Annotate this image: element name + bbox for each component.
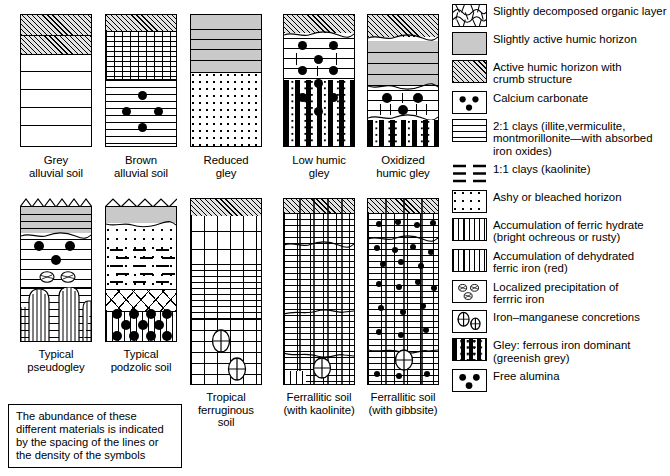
free-alumina-dot	[392, 247, 398, 253]
calcium-carbonate-dot	[51, 255, 61, 265]
profile-column	[105, 14, 177, 147]
layer-active-humic	[191, 199, 261, 216]
free-alumina-dot	[410, 244, 416, 250]
legend-item-localized-ferric-precipitation: Localized precipitation of ferrric iron	[452, 280, 668, 306]
horizon-line	[21, 214, 91, 215]
profile-typical-podzolic-soil: Typical podzolic soil	[105, 198, 177, 342]
layer-slightly-active-humic	[191, 15, 261, 72]
free-alumina-dot	[398, 332, 404, 338]
legend-item-slightly-active-humic: Slightly active humic horizon	[452, 32, 668, 55]
free-alumina-dot	[380, 261, 386, 267]
active-humic-crumb-swatch	[452, 60, 487, 83]
free-alumina-dot	[112, 309, 122, 319]
slightly-active-humic-swatch	[452, 32, 487, 55]
profile-low-humic-gley: Low humic gley	[283, 14, 355, 147]
profile-caption: Grey alluvial soil	[20, 154, 92, 179]
free-alumina-dot	[162, 309, 172, 319]
free-alumina-dot	[129, 331, 139, 341]
free-alumina-swatch	[452, 369, 487, 392]
legend-item-2-1-clays: 2:1 clays (illite,vermiculite, montmoril…	[452, 119, 668, 157]
horizon-line	[191, 39, 261, 40]
legend-label: Accumulation of dehydrated ferric iron (…	[493, 249, 634, 275]
free-alumina-dot	[129, 309, 139, 319]
horizon-line	[21, 89, 91, 90]
layer-gley-ferrous	[368, 120, 438, 147]
layer-cross-structure	[106, 290, 176, 311]
wavy-boundary	[284, 309, 354, 316]
clay-tick	[296, 53, 297, 65]
horizon-line	[191, 60, 261, 61]
layer-ferric-hydrate-upper	[191, 216, 261, 264]
layer-active-humic	[106, 15, 176, 31]
legend-item-organic-layer: Slightly decomposed organic layer	[452, 4, 668, 27]
legend-label: Ashy or bleached horizon	[493, 190, 622, 203]
horizon-line	[21, 228, 91, 229]
horizon-line	[368, 63, 438, 64]
free-alumina-dot	[400, 309, 406, 315]
profile-oxidized-humic-gley: Oxidized humic gley	[367, 14, 439, 147]
free-alumina-dot	[378, 305, 384, 311]
ferric-hydrate-swatch	[452, 218, 487, 241]
horizon-line	[191, 29, 261, 30]
legend-item-calcium-carbonate: Calcium carbonate	[452, 91, 668, 114]
wavy-boundary	[368, 34, 438, 41]
wavy-boundary	[368, 235, 438, 242]
legend-label: Slightly active humic horizon	[493, 32, 637, 45]
dehydrated-ferric-iron-swatch	[452, 249, 487, 272]
legend-label: 2:1 clays (illite,vermiculite, montmoril…	[493, 119, 653, 157]
abundance-note-box: The abundance of these different materia…	[8, 404, 182, 468]
profile-caption: Tropical ferruginous soil	[190, 391, 262, 429]
profile-brown-alluvial-soil: Brown alluvial soil	[105, 14, 177, 147]
free-alumina-dot	[430, 220, 436, 226]
legend-label: Slightly decomposed organic layer	[493, 4, 667, 17]
horizon-line	[21, 125, 91, 126]
free-alumina-dot	[420, 303, 426, 309]
profile-column	[20, 206, 92, 342]
layer-active-humic-2	[21, 36, 91, 54]
free-alumina-dot	[398, 259, 404, 265]
ferric-hydrate-tongues	[21, 287, 92, 342]
profile-caption: Ferrallitic soil (with kaolinite)	[283, 391, 355, 416]
legend: Slightly decomposed organic layer Slight…	[452, 4, 668, 397]
clays-2-1-swatch	[452, 119, 487, 142]
localized-ferric-precipitation	[37, 271, 79, 283]
profile-ferrallitic-soil-kaolinite: Ferrallitic soil (with kaolinite)	[283, 198, 355, 385]
free-alumina-dot	[154, 320, 164, 330]
horizon-line	[191, 231, 261, 232]
calcium-carbonate-dot	[329, 41, 338, 50]
calcium-carbonate-dot	[314, 107, 323, 116]
legend-label: Calcium carbonate	[493, 91, 588, 104]
horizon-line	[191, 249, 261, 250]
profile-ferrallitic-soil-gibbsite: Ferrallitic soil (with gibbsite)	[367, 198, 439, 385]
calcium-carbonate-dot	[65, 241, 75, 251]
free-alumina-dot	[431, 285, 437, 291]
kaolinite-dashes	[106, 247, 177, 289]
wavy-boundary	[284, 31, 354, 38]
free-alumina-dot	[376, 329, 382, 335]
iron-manganese-concretion	[394, 349, 414, 371]
calcium-carbonate-dot	[329, 66, 338, 75]
calcium-carbonate-dot	[138, 91, 147, 100]
legend-label: Accumulation of ferric hydrate (bright o…	[493, 218, 644, 244]
horizon-line	[21, 107, 91, 108]
calcium-carbonate-dot	[413, 93, 423, 103]
free-alumina-dot	[112, 331, 122, 341]
wavy-boundary	[284, 241, 354, 248]
profile-caption: Typical podzolic soil	[105, 348, 177, 373]
calcium-carbonate-dot	[34, 241, 44, 251]
legend-label: Free alumina	[493, 369, 559, 382]
free-alumina-dot	[414, 222, 420, 228]
free-alumina-dot	[162, 331, 172, 341]
free-alumina-dot	[395, 219, 401, 225]
horizon-line	[368, 52, 438, 53]
free-alumina-dot	[424, 371, 430, 377]
profile-column	[283, 14, 355, 147]
calcium-carbonate-dot	[298, 66, 307, 75]
iron-manganese-concretion	[227, 357, 247, 381]
free-alumina-dot	[428, 249, 434, 255]
legend-item-ashy-bleached: Ashy or bleached horizon	[452, 190, 668, 213]
legend-label: Active humic horizon with crumb structur…	[493, 60, 622, 86]
calcium-carbonate-dot	[329, 93, 338, 102]
free-alumina-dot	[146, 309, 156, 319]
profile-reduced-gley: Reduced gley	[190, 14, 262, 147]
